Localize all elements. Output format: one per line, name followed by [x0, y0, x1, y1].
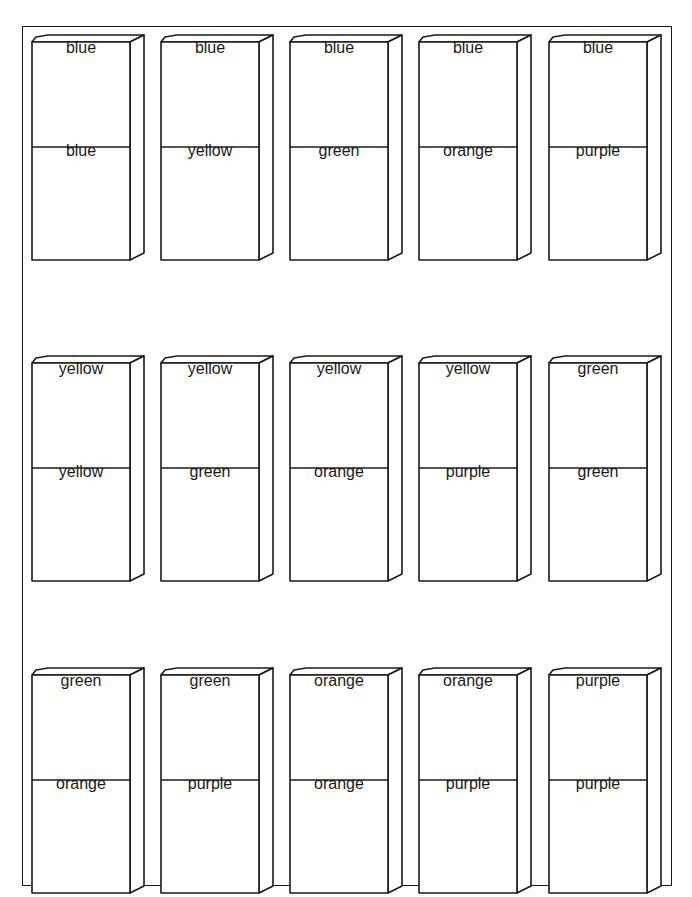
block-7: yellow green: [161, 356, 273, 586]
block-top-label: blue: [290, 39, 388, 57]
block-top-label: blue: [32, 39, 130, 57]
block-bottom-label: orange: [290, 775, 388, 793]
block-8: yellow orange: [290, 356, 402, 586]
block-bottom-label: purple: [161, 775, 259, 793]
block-bottom-label: orange: [419, 142, 517, 160]
block-top-label: orange: [419, 672, 517, 690]
block-top-label: green: [161, 672, 259, 690]
block-top-label: green: [549, 360, 647, 378]
block-1: blue blue: [32, 35, 144, 265]
block-6: yellow yellow: [32, 356, 144, 586]
block-12: green purple: [161, 668, 273, 897]
block-5: blue purple: [549, 35, 661, 265]
block-14: orange purple: [419, 668, 531, 897]
block-2: blue yellow: [161, 35, 273, 265]
block-bottom-label: purple: [549, 775, 647, 793]
block-top-label: orange: [290, 672, 388, 690]
block-top-label: yellow: [161, 360, 259, 378]
block-9: yellow purple: [419, 356, 531, 586]
block-bottom-label: purple: [549, 142, 647, 160]
block-top-label: purple: [549, 672, 647, 690]
block-bottom-label: blue: [32, 142, 130, 160]
block-3: blue green: [290, 35, 402, 265]
block-bottom-label: yellow: [32, 463, 130, 481]
block-top-label: blue: [549, 39, 647, 57]
block-bottom-label: purple: [419, 463, 517, 481]
block-4: blue orange: [419, 35, 531, 265]
block-13: orange orange: [290, 668, 402, 897]
block-bottom-label: yellow: [161, 142, 259, 160]
block-top-label: yellow: [32, 360, 130, 378]
block-top-label: blue: [419, 39, 517, 57]
block-bottom-label: purple: [419, 775, 517, 793]
block-top-label: yellow: [290, 360, 388, 378]
block-top-label: yellow: [419, 360, 517, 378]
block-10: green green: [549, 356, 661, 586]
block-bottom-label: orange: [290, 463, 388, 481]
block-15: purple purple: [549, 668, 661, 897]
block-bottom-label: orange: [32, 775, 130, 793]
block-bottom-label: green: [549, 463, 647, 481]
block-top-label: blue: [161, 39, 259, 57]
block-bottom-label: green: [290, 142, 388, 160]
block-11: green orange: [32, 668, 144, 897]
block-bottom-label: green: [161, 463, 259, 481]
block-top-label: green: [32, 672, 130, 690]
